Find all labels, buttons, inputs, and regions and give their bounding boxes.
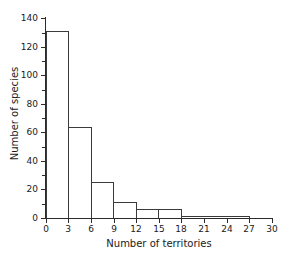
- x-tick-label-12: 12: [124, 225, 148, 234]
- y-tick-label-100: 100: [21, 71, 38, 80]
- y-tick-label-140: 140: [21, 14, 38, 23]
- x-tick-0: [46, 219, 47, 223]
- y-tick-minor-50: [42, 147, 45, 148]
- y-tick-120: [41, 47, 45, 48]
- x-tick-label-18: 18: [169, 225, 193, 234]
- y-tick-label-80: 80: [27, 100, 38, 109]
- y-tick-minor-10: [42, 204, 45, 205]
- y-tick-minor-30: [42, 175, 45, 176]
- plot-area: [46, 18, 272, 218]
- histogram-figure: 0 20 40 60 80 100 120 140 0 3 6 9 12 15 …: [0, 0, 287, 256]
- x-tick-label-27: 27: [237, 225, 261, 234]
- y-tick-minor-70: [42, 118, 45, 119]
- y-tick-label-40: 40: [27, 157, 38, 166]
- y-tick-label-20: 20: [27, 185, 38, 194]
- x-tick-21: [204, 219, 205, 223]
- y-tick-40: [41, 161, 45, 162]
- x-tick-27: [249, 219, 250, 223]
- bar-9-12: [113, 202, 137, 218]
- x-tick-3: [68, 219, 69, 223]
- x-tick-label-24: 24: [215, 225, 239, 234]
- y-tick-60: [41, 132, 45, 133]
- y-tick-minor-130: [42, 33, 45, 34]
- x-tick-label-6: 6: [79, 225, 103, 234]
- y-tick-100: [41, 75, 45, 76]
- y-tick-label-60: 60: [27, 128, 38, 137]
- y-tick-0: [41, 218, 45, 219]
- bar-15-18: [158, 209, 182, 218]
- x-tick-label-15: 15: [147, 225, 171, 234]
- bar-18-27-low: [181, 216, 250, 218]
- x-tick-24: [227, 219, 228, 223]
- y-tick-minor-110: [42, 61, 45, 62]
- x-tick-label-30: 30: [260, 225, 284, 234]
- y-tick-minor-90: [42, 90, 45, 91]
- x-tick-6: [91, 219, 92, 223]
- x-tick-12: [136, 219, 137, 223]
- x-tick-label-0: 0: [34, 225, 58, 234]
- x-tick-30: [272, 219, 273, 223]
- y-tick-20: [41, 189, 45, 190]
- bar-3-6: [68, 127, 92, 218]
- y-tick-140: [41, 18, 45, 19]
- y-tick-label-0: 0: [32, 214, 38, 223]
- x-tick-label-9: 9: [102, 225, 126, 234]
- x-tick-18: [181, 219, 182, 223]
- x-tick-label-21: 21: [192, 225, 216, 234]
- x-axis-title: Number of territories: [46, 238, 272, 249]
- x-tick-9: [114, 219, 115, 223]
- x-tick-15: [159, 219, 160, 223]
- y-tick-80: [41, 104, 45, 105]
- bar-0-3: [46, 31, 69, 218]
- bar-6-9: [91, 182, 114, 218]
- y-tick-label-120: 120: [21, 43, 38, 52]
- x-tick-label-3: 3: [56, 225, 80, 234]
- y-axis-title: Number of species: [9, 54, 20, 174]
- bar-12-15: [136, 209, 159, 218]
